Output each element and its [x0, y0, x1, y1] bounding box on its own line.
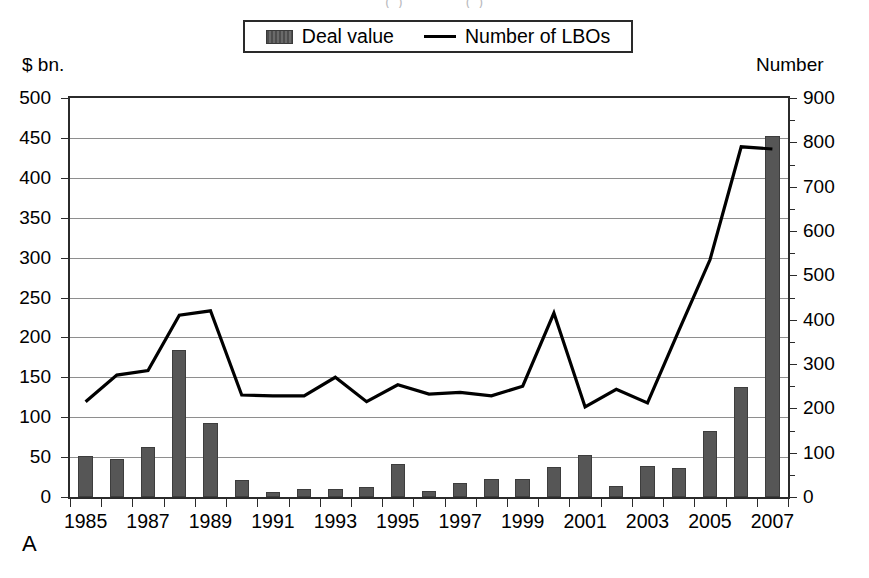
y-tick-minor-right [790, 165, 795, 166]
x-tick [226, 499, 227, 507]
line-swatch-icon [424, 35, 456, 38]
x-tick [601, 499, 602, 507]
y-tick-right [790, 408, 797, 409]
x-tick [382, 499, 383, 507]
y-tick-left [61, 497, 68, 498]
x-tick [320, 499, 321, 507]
y-tick-label-right: 300 [803, 353, 851, 375]
x-tick [663, 499, 664, 507]
y-tick-right [790, 142, 797, 143]
y-tick-label-right: 600 [803, 220, 851, 242]
x-tick-label: 1987 [113, 510, 183, 533]
y-tick-right [790, 453, 797, 454]
legend-label-deal-value: Deal value [302, 27, 394, 47]
y-tick-minor-right [790, 475, 795, 476]
axis-left [68, 96, 70, 499]
y-tick-right [790, 364, 797, 365]
y-tick-label-left: 150 [3, 366, 51, 388]
x-tick [569, 499, 570, 507]
x-tick-label: 1999 [488, 510, 558, 533]
y-tick-left [61, 218, 68, 219]
y-tick-right [790, 497, 797, 498]
y-tick-left [61, 298, 68, 299]
x-tick [164, 499, 165, 507]
x-tick-label: 2007 [737, 510, 807, 533]
y-tick-right [790, 187, 797, 188]
x-tick-label: 2005 [675, 510, 745, 533]
x-tick-label: 1993 [300, 510, 370, 533]
y-tick-left [61, 417, 68, 418]
x-tick-label: 1989 [175, 510, 245, 533]
x-tick-label: 2001 [550, 510, 620, 533]
x-tick [70, 499, 71, 507]
legend-label-number-of-lbos: Number of LBOs [465, 27, 610, 47]
x-tick [476, 499, 477, 507]
x-tick [726, 499, 727, 507]
y-tick-left [61, 98, 68, 99]
cut-off-title-fragment: ( ) ( ) [110, 0, 790, 8]
y-tick-left [61, 178, 68, 179]
y-tick-minor-right [790, 342, 795, 343]
y-tick-left [61, 377, 68, 378]
axis-top [68, 96, 790, 98]
x-tick [507, 499, 508, 507]
x-tick-label: 1995 [363, 510, 433, 533]
x-tick-label: 1997 [425, 510, 495, 533]
y-tick-minor-right [790, 253, 795, 254]
x-tick [132, 499, 133, 507]
y-tick-left [61, 457, 68, 458]
y-tick-minor-right [790, 298, 795, 299]
y-tick-label-left: 300 [3, 247, 51, 269]
x-tick [757, 499, 758, 507]
y-tick-left [61, 258, 68, 259]
bar-swatch-icon [266, 30, 293, 44]
y-tick-minor-right [790, 386, 795, 387]
y-tick-label-left: 0 [3, 486, 51, 508]
x-tick [257, 499, 258, 507]
y-tick-label-right: 700 [803, 176, 851, 198]
y-tick-label-left: 350 [3, 207, 51, 229]
axis-bottom [68, 497, 790, 499]
y-tick-right [790, 231, 797, 232]
x-tick [788, 499, 789, 507]
legend-item-deal-value: Deal value [266, 27, 394, 47]
y-tick-label-right: 900 [803, 87, 851, 109]
y-tick-label-right: 500 [803, 264, 851, 286]
x-tick [195, 499, 196, 507]
x-tick [413, 499, 414, 507]
figure-panel-a: ( ) ( ) Deal value Number of LBOs $ bn. … [0, 0, 869, 578]
line-series-number-of-lbos [68, 96, 790, 499]
y-tick-left [61, 138, 68, 139]
y-tick-label-right: 400 [803, 309, 851, 331]
x-tick [538, 499, 539, 507]
y-tick-minor-right [790, 431, 795, 432]
y-tick-label-left: 100 [3, 406, 51, 428]
y-tick-label-left: 400 [3, 167, 51, 189]
chart-legend: Deal value Number of LBOs [243, 20, 633, 53]
legend-item-number-of-lbos: Number of LBOs [424, 27, 610, 47]
x-tick [351, 499, 352, 507]
x-tick [101, 499, 102, 507]
plot-area: 050100150200250300350400450500 010020030… [68, 96, 790, 499]
x-tick-label: 1985 [51, 510, 121, 533]
y-axis-title-left: $ bn. [22, 54, 64, 76]
x-tick [694, 499, 695, 507]
y-tick-right [790, 320, 797, 321]
x-tick-label: 1991 [238, 510, 308, 533]
y-tick-label-right: 100 [803, 442, 851, 464]
x-tick-label: 2003 [613, 510, 683, 533]
y-tick-label-right: 200 [803, 397, 851, 419]
x-tick [289, 499, 290, 507]
panel-label: A [22, 531, 37, 557]
y-tick-label-left: 500 [3, 87, 51, 109]
y-tick-label-left: 250 [3, 287, 51, 309]
y-tick-minor-right [790, 120, 795, 121]
y-tick-label-left: 450 [3, 127, 51, 149]
y-tick-right [790, 275, 797, 276]
y-tick-right [790, 98, 797, 99]
y-tick-minor-right [790, 209, 795, 210]
x-tick [632, 499, 633, 507]
y-tick-label-right: 800 [803, 131, 851, 153]
x-tick [445, 499, 446, 507]
y-tick-label-right: 0 [803, 486, 851, 508]
